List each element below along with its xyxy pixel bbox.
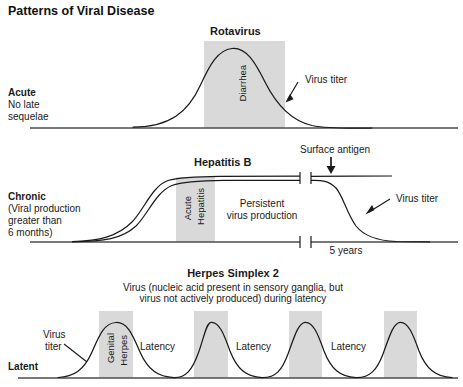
category-label-chronic: Chronic: [8, 191, 46, 202]
annotation-virus-titer-acute: Virus titer: [305, 74, 347, 85]
category-sub-acute-line2: sequelae: [8, 111, 49, 122]
category-sub-chronic-line1: (Viral production: [8, 203, 81, 214]
annotation-virus-titer-latent-line1: Virus: [43, 329, 66, 340]
annotation-virus-titer-latent-line2: titer: [45, 341, 62, 352]
band-label-herpes: Herpes: [119, 335, 129, 366]
annotation-latency-1: Latency: [140, 341, 175, 352]
page-title: Patterns of Viral Disease: [8, 4, 154, 18]
panel-title-rotavirus: Rotavirus: [210, 26, 261, 37]
annotation-latency-3: Latency: [331, 341, 366, 352]
annotation-latency-2: Latency: [236, 341, 271, 352]
annotation-virus-titer-chronic: Virus titer: [396, 193, 438, 204]
category-label-acute: Acute: [8, 87, 36, 98]
band-label-hepatitis: Hepatitis: [196, 188, 206, 225]
panel-title-hepatitis-b: Hepatitis B: [194, 157, 251, 168]
panel-subtitle-herpes-line1: Virus (nucleic acid present in sensory g…: [113, 282, 353, 293]
category-sub-chronic-line3: 6 months): [8, 227, 52, 238]
band-label-acute: Acute: [183, 196, 193, 220]
viral-disease-patterns-figure: [0, 0, 463, 387]
panel-subtitle-herpes-line2: virus not actively produced) during late…: [113, 293, 353, 304]
annotation-persistent-line2: virus production: [223, 210, 301, 221]
annotation-surface-antigen: Surface antigen: [300, 144, 370, 155]
annotation-persistent-line1: Persistent: [223, 198, 301, 209]
shaded-band-recurrence-2: [194, 311, 228, 378]
band-label-genital: Genital: [106, 333, 116, 363]
annotation-time-scale-5-years: 5 years: [320, 245, 372, 256]
category-sub-acute-line1: No late: [8, 99, 40, 110]
band-label-diarrhea: Diarrhea: [238, 65, 248, 101]
category-label-latent: Latent: [8, 361, 38, 372]
panel-title-herpes-simplex-2: Herpes Simplex 2: [153, 268, 313, 279]
shaded-band-recurrence-4: [384, 311, 417, 378]
shaded-band-recurrence-3: [289, 311, 322, 378]
category-sub-chronic-line2: greater than: [8, 215, 62, 226]
